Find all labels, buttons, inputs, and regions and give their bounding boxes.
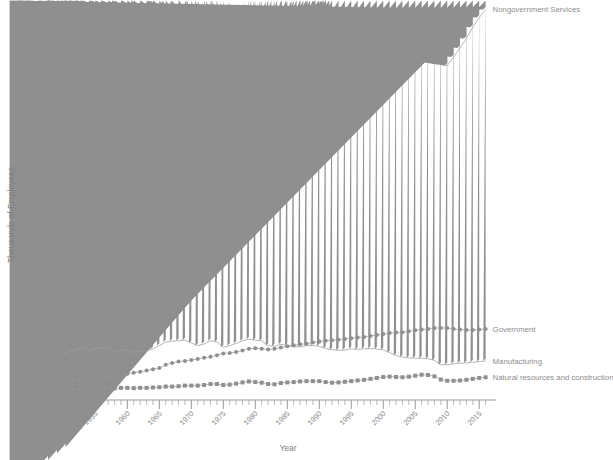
chart-canvas: 020000400006000080000100000120000 195019…: [0, 0, 613, 460]
series-label-1: Manufacturing: [493, 357, 542, 366]
x-tick-label: 2005: [401, 409, 419, 427]
employment-line-chart: 020000400006000080000100000120000 195019…: [0, 0, 613, 460]
x-tick-label: 1975: [210, 409, 228, 427]
x-tick-label: 1985: [274, 409, 292, 427]
x-axis-title: Year: [279, 443, 296, 453]
x-tick-label: 2010: [433, 409, 451, 427]
x-axis: 1950195519601965197019751980198519901995…: [50, 400, 496, 427]
series-end-labels: Nongovernment ServicesManufacturingGover…: [493, 5, 613, 382]
y-axis-title: Thousands of Employees: [6, 167, 16, 263]
x-tick-label: 1970: [178, 409, 196, 427]
x-tick-label: 1960: [114, 409, 132, 427]
x-tick-label: 2015: [465, 409, 483, 427]
series-layer: [10, 0, 488, 460]
x-tick-label: 1990: [306, 409, 324, 427]
x-tick-label: 1965: [146, 409, 164, 427]
series-label-3: Natural resources and construction: [493, 373, 613, 382]
series-label-2: Government: [493, 325, 537, 334]
x-tick-label: 1980: [242, 409, 260, 427]
x-tick-label: 2000: [370, 409, 388, 427]
x-tick-label: 1995: [338, 409, 356, 427]
series-label-0: Nongovernment Services: [493, 5, 581, 14]
